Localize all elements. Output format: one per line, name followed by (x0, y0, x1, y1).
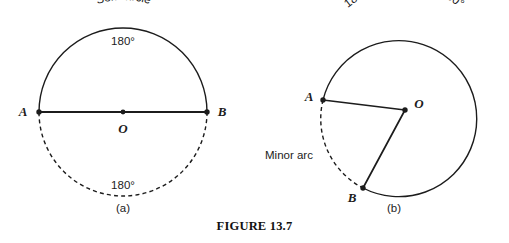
panel-b-label-b: B (347, 190, 357, 205)
panel-a-bottom-arc-measure: 180° (111, 179, 135, 191)
panel-b-major-arc-label: 180° < Major arc < 360° (342, 0, 467, 10)
panel-a-point-o-dot (121, 110, 126, 115)
panel-b-minor-arc-label: Minor arc (265, 149, 313, 161)
panel-a-point-b-dot (204, 109, 209, 114)
panel-a-label-b: B (217, 104, 227, 119)
geometry-diagram-canvas: A O B Semicircle 180° 180° (a) (0, 0, 509, 243)
panel-a: A O B Semicircle 180° 180° (a) (18, 0, 227, 214)
panel-b-label: (b) (387, 202, 401, 214)
panel-b-minor-arc (321, 100, 363, 188)
figure-caption: FIGURE 13.7 (0, 219, 509, 234)
panel-b-radius-ob (363, 110, 405, 188)
panel-b-point-b-dot (360, 185, 365, 190)
panel-b-radius-oa (323, 100, 405, 110)
panel-b: A O B 180° < Major arc < 360° Minor arc … (265, 0, 490, 214)
panel-b-point-o-dot (402, 107, 407, 112)
panel-a-point-a-dot (36, 109, 41, 114)
panel-a-label-o: O (118, 121, 128, 136)
figure-13-7: A O B Semicircle 180° 180° (a) (0, 0, 509, 243)
panel-b-label-o: O (414, 96, 424, 111)
panel-a-semicircle-label: Semicircle (95, 0, 153, 6)
panel-b-point-a-dot (320, 97, 325, 102)
panel-a-top-arc-measure: 180° (111, 35, 135, 47)
panel-b-label-a: A (304, 89, 314, 104)
panel-a-label-a: A (18, 104, 28, 119)
panel-a-label: (a) (116, 202, 130, 214)
